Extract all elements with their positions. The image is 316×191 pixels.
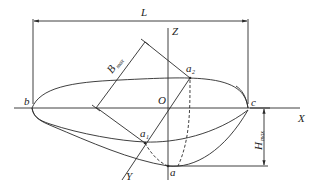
height-label-sub: max <box>259 131 265 141</box>
breadth-dimension-line <box>96 42 145 108</box>
y-axis-label: Y <box>126 170 134 182</box>
breadth-label-sub: max <box>114 58 125 70</box>
height-label: H max <box>252 131 265 151</box>
point-a2-sub: 2 <box>192 69 195 75</box>
hull-diagram: L B max H max Z X Y O b c a a 1 a 2 <box>0 0 316 191</box>
point-a1-sub: 1 <box>146 134 149 140</box>
point-a1-marker <box>144 142 147 145</box>
length-label: L <box>140 6 147 18</box>
point-a1-label: a 1 <box>140 127 149 140</box>
point-b-label: b <box>24 95 30 107</box>
origin-label: O <box>158 94 166 106</box>
section-line-bottom <box>97 108 145 143</box>
x-axis-label: X <box>297 112 306 124</box>
point-c-label: c <box>251 96 256 108</box>
point-a2-label: a 2 <box>186 62 195 75</box>
height-label-main: H <box>252 141 264 151</box>
z-axis-label: Z <box>172 25 179 37</box>
point-a-label: a <box>170 166 176 178</box>
upper-hull-curve <box>32 78 248 108</box>
dashed-section-left <box>145 143 168 166</box>
point-a-marker <box>167 165 170 168</box>
point-a2-marker <box>189 77 192 80</box>
section-line-top <box>145 42 190 78</box>
y-axis <box>122 78 190 180</box>
